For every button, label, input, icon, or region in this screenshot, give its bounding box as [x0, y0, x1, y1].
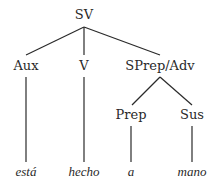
node-sv: SV: [75, 8, 93, 22]
node-v: V: [79, 59, 88, 73]
leaf-hecho: hecho: [68, 165, 99, 179]
syntax-tree: SV Aux V SPrep/Adv Prep Sus está hecho a…: [0, 0, 223, 185]
branch-sprep-sus: [160, 77, 192, 105]
tree-branches: [0, 0, 223, 185]
leaf-esta: está: [16, 165, 37, 179]
branch-sv-sprep: [84, 27, 160, 55]
node-aux: Aux: [13, 59, 38, 73]
node-prep: Prep: [116, 108, 147, 122]
node-sus: Sus: [180, 108, 204, 122]
leaf-a: a: [128, 165, 135, 179]
leaf-mano: mano: [178, 165, 207, 179]
branch-sprep-prep: [132, 77, 160, 105]
node-sprep-adv: SPrep/Adv: [125, 59, 194, 73]
branch-sv-aux: [26, 27, 84, 55]
